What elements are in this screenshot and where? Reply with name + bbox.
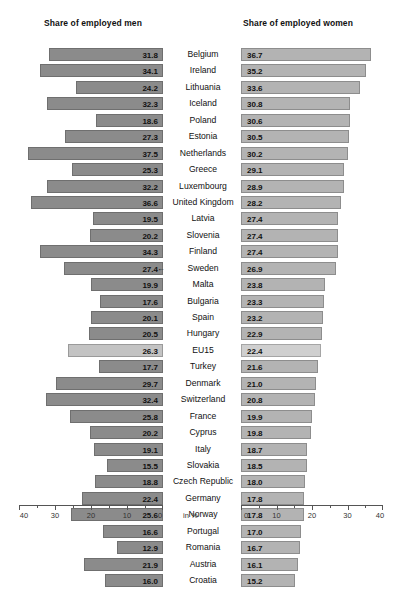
chart-row: 34.3Finland27.4 bbox=[0, 244, 408, 260]
bar-men: 32.2 bbox=[47, 180, 163, 193]
bar-track-men: 20.2 bbox=[19, 229, 163, 242]
bar-value-men: 18.8 bbox=[142, 476, 158, 489]
bar-value-women: 23.2 bbox=[247, 312, 263, 325]
bar-track-men: 19.5 bbox=[19, 212, 163, 225]
axis-tick-major bbox=[382, 505, 383, 510]
bar-track-men: 34.1 bbox=[19, 64, 163, 77]
x-axis-men: 403020100 bbox=[19, 505, 163, 527]
bar-men: 26.3 bbox=[68, 344, 163, 357]
bar-men: 24.2 bbox=[76, 81, 163, 94]
chart-row: 26.3EU1522.4 bbox=[0, 343, 408, 359]
bar-value-men: 37.5 bbox=[142, 148, 158, 161]
chart-row: 31.8Belgium36.7 bbox=[0, 47, 408, 63]
bar-value-women: 23.8 bbox=[247, 279, 263, 292]
bar-men: 16.0 bbox=[105, 574, 163, 587]
bar-value-women: 22.4 bbox=[247, 345, 263, 358]
bar-track-women: 19.9 bbox=[241, 410, 383, 423]
bar-track-women: 30.8 bbox=[241, 97, 383, 110]
country-label: Estonia bbox=[168, 129, 238, 144]
chart-row: 27.3Estonia30.5 bbox=[0, 129, 408, 145]
country-label: Hungary bbox=[168, 326, 238, 341]
bar-value-women: 28.2 bbox=[247, 197, 263, 210]
x-axis-women: 010203040 bbox=[241, 505, 383, 527]
bar-men: 27.3 bbox=[65, 130, 163, 143]
bar-track-men: 24.2 bbox=[19, 81, 163, 94]
country-label: Iceland bbox=[168, 96, 238, 111]
bar-value-women: 19.9 bbox=[247, 411, 263, 424]
bar-women: 18.0 bbox=[241, 475, 305, 488]
bar-track-men: 27.3 bbox=[19, 130, 163, 143]
chart-row: 36.6United Kingdom28.2 bbox=[0, 195, 408, 211]
country-label: Bulgaria bbox=[168, 294, 238, 309]
bar-women: 30.8 bbox=[241, 97, 350, 110]
chart-row: 25.3Greece29.1 bbox=[0, 162, 408, 178]
country-label: France bbox=[168, 409, 238, 424]
bar-value-men: 29.7 bbox=[142, 378, 158, 391]
bar-value-women: 30.8 bbox=[247, 98, 263, 111]
bar-value-women: 23.3 bbox=[247, 296, 263, 309]
bar-men: 25.3 bbox=[72, 163, 163, 176]
bar-value-women: 20.8 bbox=[247, 394, 263, 407]
axis-tick-major bbox=[241, 505, 242, 510]
country-label: Netherlands bbox=[168, 146, 238, 161]
bar-women: 27.4 bbox=[241, 245, 338, 258]
bar-women: 36.7 bbox=[241, 48, 371, 61]
axis-unit-label: in % bbox=[183, 511, 198, 520]
bar-track-women: 18.7 bbox=[241, 443, 383, 456]
bar-value-women: 19.8 bbox=[247, 427, 263, 440]
country-label: Cyprus bbox=[168, 425, 238, 440]
panel-title-men: Share of employed men bbox=[44, 18, 142, 28]
bar-track-women: 16.1 bbox=[241, 558, 383, 571]
bar-women: 30.5 bbox=[241, 130, 349, 143]
bar-men: 19.5 bbox=[93, 212, 163, 225]
bar-women: 23.3 bbox=[241, 295, 324, 308]
bar-track-men: 32.2 bbox=[19, 180, 163, 193]
bar-value-women: 18.5 bbox=[247, 460, 263, 473]
country-label: Ireland bbox=[168, 63, 238, 78]
axis-tick-minor bbox=[365, 505, 366, 508]
bar-track-men: 25.3 bbox=[19, 163, 163, 176]
axis-tick-label: 30 bbox=[51, 511, 59, 520]
bar-track-women: 33.6 bbox=[241, 81, 383, 94]
bar-value-women: 18.0 bbox=[247, 476, 263, 489]
bar-value-men: 26.3 bbox=[142, 345, 158, 358]
bar-men: 34.3 bbox=[40, 245, 163, 258]
bar-value-men: 20.1 bbox=[142, 312, 158, 325]
bar-value-men: 17.6 bbox=[142, 296, 158, 309]
bar-value-women: 30.5 bbox=[247, 131, 263, 144]
bar-men: 20.2 bbox=[90, 426, 163, 439]
bar-track-women: 21.0 bbox=[241, 377, 383, 390]
bar-men: 20.5 bbox=[89, 327, 163, 340]
bar-men: 31.8 bbox=[49, 48, 163, 61]
bar-men: 19.1 bbox=[94, 443, 163, 456]
bar-value-women: 27.4 bbox=[247, 246, 263, 259]
bar-men: 18.8 bbox=[95, 475, 163, 488]
bar-men: 36.6 bbox=[31, 196, 163, 209]
bar-value-women: 29.1 bbox=[247, 164, 263, 177]
bar-track-men: 12.9 bbox=[19, 541, 163, 554]
bar-value-men: 31.8 bbox=[142, 49, 158, 62]
bar-women: 21.6 bbox=[241, 360, 318, 373]
bar-track-men: 32.3 bbox=[19, 97, 163, 110]
bar-men: 34.1 bbox=[40, 64, 163, 77]
bar-track-women: 36.7 bbox=[241, 48, 383, 61]
axis-tick-label: 40 bbox=[20, 511, 28, 520]
bar-value-women: 27.4 bbox=[247, 230, 263, 243]
bar-track-men: 18.8 bbox=[19, 475, 163, 488]
chart-row: 19.5Latvia27.4 bbox=[0, 211, 408, 227]
bar-men: 17.7 bbox=[99, 360, 163, 373]
bar-track-men: 18.6 bbox=[19, 114, 163, 127]
bar-women: 30.6 bbox=[241, 114, 350, 127]
row-marker-arrow-icon: ← bbox=[157, 261, 165, 276]
bar-men: 20.2 bbox=[90, 229, 163, 242]
bar-track-men: 29.7 bbox=[19, 377, 163, 390]
axis-tick-major bbox=[312, 505, 313, 510]
bar-track-women: 27.4 bbox=[241, 245, 383, 258]
chart-row: 24.2Lithuania33.6 bbox=[0, 80, 408, 96]
chart-row: 20.1Spain23.2 bbox=[0, 310, 408, 326]
bar-women: 27.4 bbox=[241, 229, 338, 242]
bar-track-women: 23.3 bbox=[241, 295, 383, 308]
bar-value-women: 22.9 bbox=[247, 328, 263, 341]
country-label: Denmark bbox=[168, 376, 238, 391]
bar-track-men: 36.6 bbox=[19, 196, 163, 209]
